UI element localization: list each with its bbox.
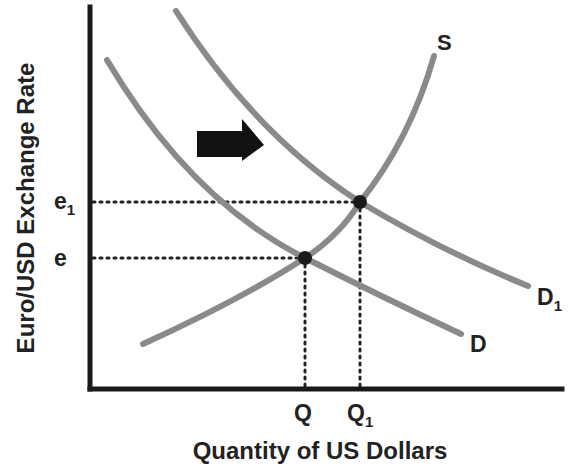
x-tick-q1: Q1 bbox=[347, 400, 373, 430]
label-s: S bbox=[437, 30, 452, 55]
equilibrium-point-original bbox=[298, 251, 312, 265]
x-axis-title: Quantity of US Dollars bbox=[193, 437, 448, 464]
label-d: D bbox=[470, 331, 487, 357]
axes bbox=[90, 7, 562, 389]
y-axis-title: Euro/USD Exchange Rate bbox=[12, 63, 39, 354]
x-tick-q: Q bbox=[294, 400, 312, 426]
y-tick-e1: e1 bbox=[54, 188, 75, 218]
label-d1: D1 bbox=[537, 284, 562, 314]
guide-lines bbox=[93, 202, 360, 386]
chart-canvas: S D1 D e1 e Q Q1 Quantity of US Dollars … bbox=[0, 0, 588, 466]
y-tick-e: e bbox=[54, 245, 67, 271]
equilibrium-point-new bbox=[353, 195, 367, 209]
demand-curve-d bbox=[107, 60, 461, 334]
shift-right-arrow-icon bbox=[197, 119, 264, 161]
